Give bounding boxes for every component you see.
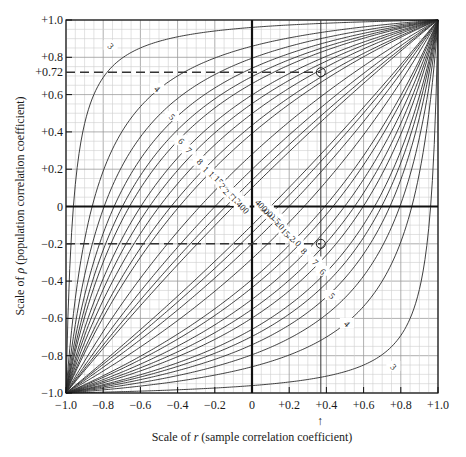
- confidence-belt-chart: 3344556677881010121215152020252550501001…: [0, 0, 466, 457]
- x-tick-label: +1.0: [427, 398, 449, 412]
- y-tick-label: +0.8: [41, 50, 63, 64]
- y-tick-label: +0.4: [41, 125, 63, 139]
- x-tick-label: −0.6: [130, 398, 152, 412]
- x-tick-label: −0.2: [204, 398, 226, 412]
- x-tick-label: +0.8: [390, 398, 412, 412]
- x-axis-title: Scale of r (sample correlation coefficie…: [152, 430, 353, 444]
- y-tick-label: +0.6: [41, 88, 63, 102]
- y-tick-label: +0.2: [41, 162, 63, 176]
- y-tick-label: 0: [57, 200, 63, 214]
- y-tick-label: −0.2: [41, 237, 63, 251]
- y-tick-label: −1.0: [41, 386, 63, 400]
- x-tick-label: −0.4: [167, 398, 189, 412]
- x-tick-label: −0.8: [92, 398, 114, 412]
- x-tick-label: −1.0: [55, 398, 77, 412]
- x-tick-label: +0.6: [353, 398, 375, 412]
- y-tick-label: +1.0: [41, 13, 63, 27]
- x-tick-label: +0.2: [278, 398, 300, 412]
- y-tick-label-extra: +0.72: [35, 65, 63, 79]
- y-tick-label: −0.4: [41, 274, 63, 288]
- x-tick-label: +0.4: [316, 398, 338, 412]
- y-tick-label: −0.6: [41, 311, 63, 325]
- x-tick-label: 0: [249, 398, 255, 412]
- y-axis-title: Scale of ρ (population correlation coeff…: [13, 96, 27, 315]
- arrow-marker: ↑: [317, 414, 323, 428]
- y-tick-label: −0.8: [41, 349, 63, 363]
